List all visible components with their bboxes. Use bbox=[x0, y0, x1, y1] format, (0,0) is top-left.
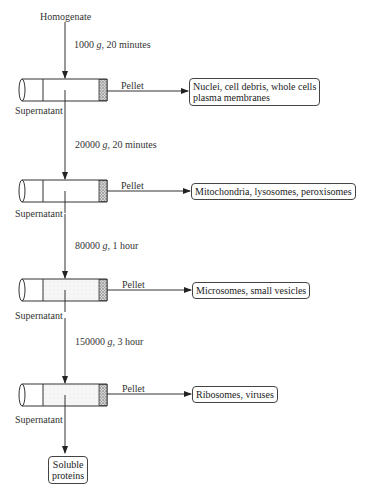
spin-duration: 20 minutes bbox=[113, 139, 157, 150]
homogenate-label: Homogenate bbox=[40, 11, 91, 22]
final-product-line: Soluble bbox=[52, 459, 84, 470]
spin-speed: 20000 bbox=[75, 139, 100, 150]
pellet-label-3: Pellet bbox=[122, 279, 145, 290]
pellet-contents-line: Microsomes, small vesicles bbox=[196, 285, 306, 296]
spin-unit: g bbox=[97, 39, 102, 50]
supernatant-label-2: Supernatant bbox=[15, 208, 63, 219]
spin-condition-3: 80000 g, 1 hour bbox=[75, 240, 138, 251]
pellet bbox=[99, 181, 107, 202]
tube-opening bbox=[19, 79, 25, 101]
pellet bbox=[99, 385, 107, 406]
tube-opening bbox=[19, 180, 25, 202]
supernatant-label-3: Supernatant bbox=[15, 310, 63, 321]
pellet-contents-box-1: Nuclei, cell debris, whole cells plasma … bbox=[189, 78, 320, 106]
supernatant-region bbox=[43, 279, 98, 301]
tube-opening bbox=[19, 279, 25, 301]
supernatant-region bbox=[43, 384, 98, 406]
pellet-contents-box-3: Microsomes, small vesicles bbox=[192, 282, 310, 299]
pellet-contents-line: plasma membranes bbox=[193, 92, 316, 103]
spin-speed: 150000 bbox=[75, 336, 105, 347]
spin-duration: 3 hour bbox=[118, 336, 144, 347]
pellet bbox=[99, 80, 107, 101]
supernatant-label-1: Supernatant bbox=[15, 105, 63, 116]
pellet-label-1: Pellet bbox=[121, 80, 144, 91]
pellet-contents-line: Nuclei, cell debris, whole cells bbox=[193, 81, 316, 92]
tube-opening bbox=[19, 384, 25, 406]
spin-duration: 20 minutes bbox=[107, 39, 151, 50]
pellet-contents-box-2: Mitochondria, lysosomes, peroxisomes bbox=[191, 183, 356, 200]
pellet-label-4: Pellet bbox=[122, 383, 145, 394]
spin-condition-1: 1000 g, 20 minutes bbox=[74, 39, 151, 50]
spin-condition-2: 20000 g, 20 minutes bbox=[75, 139, 157, 150]
pellet-contents-line: Ribosomes, viruses bbox=[196, 389, 274, 400]
pellet-contents-line: Mitochondria, lysosomes, peroxisomes bbox=[195, 186, 352, 197]
soluble-proteins-box: Soluble proteins bbox=[48, 456, 88, 484]
spin-unit: g bbox=[103, 139, 108, 150]
spin-speed: 1000 bbox=[74, 39, 94, 50]
spin-unit: g bbox=[108, 336, 113, 347]
pellet-label-2: Pellet bbox=[121, 180, 144, 191]
supernatant-label-4: Supernatant bbox=[15, 414, 63, 425]
spin-unit: g bbox=[103, 240, 108, 251]
pellet-contents-box-4: Ribosomes, viruses bbox=[192, 386, 278, 403]
supernatant-region bbox=[43, 180, 98, 202]
final-product-line: proteins bbox=[52, 470, 84, 481]
spin-speed: 80000 bbox=[75, 240, 100, 251]
supernatant-region bbox=[43, 79, 98, 101]
spin-duration: 1 hour bbox=[113, 240, 139, 251]
spin-condition-4: 150000 g, 3 hour bbox=[75, 336, 143, 347]
pellet bbox=[99, 280, 107, 301]
